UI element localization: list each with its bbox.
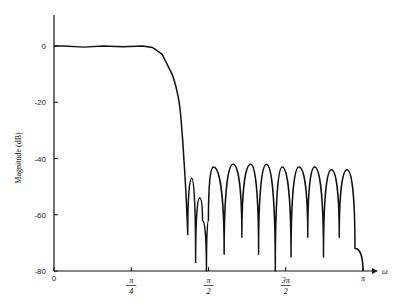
y-tick-label: -20 (34, 98, 46, 107)
x-tick-numerator: 3π (281, 276, 291, 285)
x-tick-denominator: 2 (207, 287, 211, 296)
y-axis-label: Magnitude (dB) (14, 132, 23, 184)
x-tick-label: π (361, 274, 366, 283)
y-tick-label: -60 (34, 211, 46, 220)
x-tick-denominator: 2 (284, 287, 288, 296)
y-tick-label: 0 (42, 42, 47, 51)
x-axis-arrow-icon (372, 268, 378, 274)
magnitude-curve (54, 46, 363, 271)
x-tick-numerator: π (206, 276, 211, 285)
y-tick-label: -80 (34, 267, 46, 276)
y-tick-label: -40 (34, 155, 46, 164)
x-tick-numerator: π (129, 276, 134, 285)
x-tick-denominator: 4 (129, 287, 133, 296)
x-axis-label: ω (382, 267, 388, 276)
magnitude-chart: 0-20-40-60-80 0π4π23π2π Magnitude (dB) ω (0, 0, 399, 306)
x-tick-label: 0 (52, 274, 57, 283)
